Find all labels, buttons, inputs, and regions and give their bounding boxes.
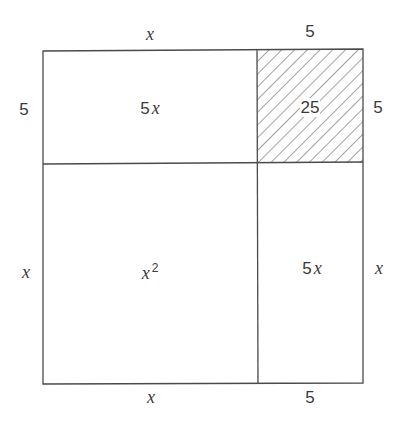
square-outline xyxy=(0,0,407,432)
top-label-5: 5 xyxy=(298,22,322,42)
region-bottom-right-5x: 5x xyxy=(282,258,342,279)
region-bottom-right-var: x xyxy=(314,258,322,278)
region-bottom-left-var: x xyxy=(142,263,150,283)
region-bottom-left-exponent: 2 xyxy=(152,261,159,275)
region-top-right-25: 25 xyxy=(290,98,330,118)
right-label-5: 5 xyxy=(366,98,390,118)
region-top-left-coef: 5 xyxy=(140,99,149,118)
region-top-left-var: x xyxy=(152,98,160,118)
bottom-label-x: x xyxy=(139,387,163,407)
region-bottom-left-x-squared: x2 xyxy=(124,258,174,284)
bottom-label-5: 5 xyxy=(298,388,322,408)
right-label-x: x xyxy=(367,258,391,278)
binomial-square-diagram: x 5 5 x 5 x x 5 5x 25 x2 5x xyxy=(0,0,407,432)
left-label-5: 5 xyxy=(12,100,36,120)
top-label-x: x xyxy=(138,24,162,44)
region-top-right-value: 25 xyxy=(300,98,321,117)
left-label-x: x xyxy=(14,262,38,282)
region-top-left-5x: 5x xyxy=(120,98,180,119)
region-bottom-right-coef: 5 xyxy=(302,259,311,278)
